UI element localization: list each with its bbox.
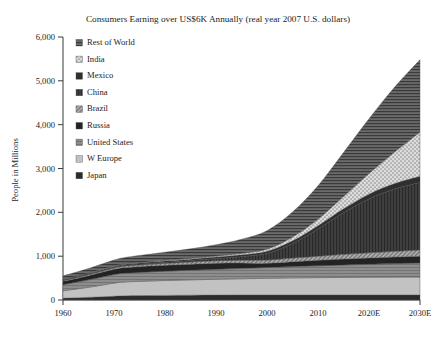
legend-label-china: China <box>87 87 108 97</box>
y-tick-3000: 3,000 <box>36 164 55 174</box>
legend-swatch-japan <box>76 172 83 179</box>
legend-label-brazil: Brazil <box>87 103 109 113</box>
x-tick-1980: 1980 <box>156 308 173 318</box>
y-tick-6000: 6,000 <box>36 32 55 42</box>
chart-title: Consumers Earning over US$6K Annually (r… <box>86 14 350 24</box>
legend-label-mexico: Mexico <box>87 70 113 80</box>
chart-container: Consumers Earning over US$6K Annually (r… <box>0 0 437 341</box>
legend-label-india: India <box>87 54 105 64</box>
legend-label-w-europe: W Europe <box>87 153 122 163</box>
x-tick-1990: 1990 <box>207 308 224 318</box>
y-tick-5000: 5,000 <box>36 76 55 86</box>
x-tick-2010: 2010 <box>309 308 326 318</box>
y-tick-4000: 4,000 <box>36 120 55 130</box>
legend-swatch-mexico <box>76 73 83 80</box>
y-axis-label: People in Millions <box>10 138 20 202</box>
x-tick-2000: 2000 <box>258 308 275 318</box>
legend-swatch-china <box>76 89 83 96</box>
legend-swatch-russia <box>76 123 83 130</box>
x-tick-1970: 1970 <box>105 308 122 318</box>
legend-label-japan: Japan <box>87 170 107 180</box>
area-chart: Consumers Earning over US$6K Annually (r… <box>0 0 437 341</box>
x-tick-2030E: 2030E <box>409 308 431 318</box>
legend-swatch-rest-of-world <box>76 40 83 47</box>
legend-swatch-w-europe <box>76 156 83 163</box>
y-tick-1000: 1,000 <box>36 251 55 261</box>
legend-swatch-united-states <box>76 139 83 146</box>
legend-label-rest-of-world: Rest of World <box>87 37 136 47</box>
x-tick-2020E: 2020E <box>358 308 380 318</box>
y-tick-2000: 2,000 <box>36 207 55 217</box>
x-tick-1960: 1960 <box>54 308 71 318</box>
legend-swatch-brazil <box>76 106 83 113</box>
legend-swatch-india <box>76 56 83 63</box>
legend-label-united-states: United States <box>87 137 134 147</box>
y-tick-0: 0 <box>51 295 55 305</box>
legend-label-russia: Russia <box>87 120 110 130</box>
